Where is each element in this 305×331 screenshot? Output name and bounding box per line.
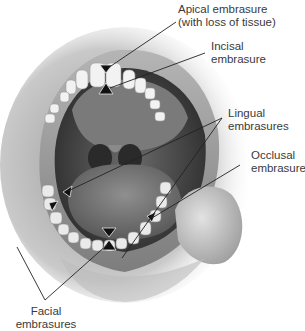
occlusal-embrasure-label: Occlusal embrasure (251, 149, 305, 175)
incisal-embrasure-label: Incisal embrasure (211, 40, 266, 66)
lingual-embrasures-label: Lingual embrasures (228, 107, 289, 133)
embrasures-figure: Apical embrasure (with loss of tissue) I… (0, 0, 305, 331)
facial-embrasures-label: Facial embrasures (14, 305, 78, 331)
apical-embrasure-label: Apical embrasure (with loss of tissue) (178, 3, 276, 29)
